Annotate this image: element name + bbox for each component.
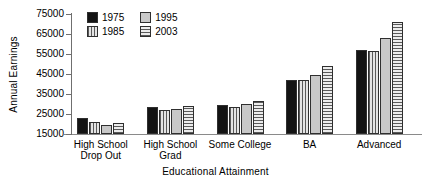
bar <box>77 118 88 134</box>
bar <box>241 104 252 134</box>
category-label: Advanced <box>329 139 429 150</box>
legend-label: 2003 <box>155 26 177 37</box>
bar <box>356 50 367 134</box>
bar <box>380 38 391 134</box>
bar <box>183 106 194 134</box>
legend-item: 1985 <box>87 26 124 37</box>
legend-swatch <box>87 12 98 23</box>
bar <box>392 22 403 134</box>
bar <box>368 51 379 134</box>
chart-legend: 1975199519852003 <box>87 12 178 37</box>
legend-label: 1975 <box>102 12 124 23</box>
bar <box>147 107 158 134</box>
bar <box>286 80 297 134</box>
bar <box>89 122 100 134</box>
x-axis-label: Educational Attainment <box>0 166 431 177</box>
y-tick-label: 15000 <box>0 129 64 139</box>
bar <box>310 75 321 134</box>
y-tick-label: 75000 <box>0 9 64 19</box>
bar <box>217 105 228 134</box>
bar <box>298 80 309 134</box>
bar-group <box>77 118 124 134</box>
y-tick-label: 55000 <box>0 49 64 59</box>
legend-swatch <box>140 12 151 23</box>
legend-item: 1995 <box>140 12 177 23</box>
bar <box>113 123 124 134</box>
y-tick-label: 65000 <box>0 29 64 39</box>
y-tick-mark <box>66 134 72 135</box>
legend-label: 1985 <box>102 26 124 37</box>
bar-group <box>356 22 403 134</box>
y-tick-label: 25000 <box>0 109 64 119</box>
legend-item: 2003 <box>140 26 177 37</box>
y-tick-label: 35000 <box>0 89 64 99</box>
x-axis-line <box>64 134 422 135</box>
bar-group <box>217 101 264 134</box>
bar <box>171 109 182 134</box>
legend-item: 1975 <box>87 12 124 23</box>
bar-chart: Annual Earnings Educational Attainment 1… <box>0 0 431 185</box>
bar-group <box>286 66 333 134</box>
y-tick-label: 45000 <box>0 69 64 79</box>
legend-swatch <box>87 26 98 37</box>
bar <box>101 125 112 134</box>
legend-label: 1995 <box>155 12 177 23</box>
legend-swatch <box>140 26 151 37</box>
bar <box>229 107 240 134</box>
bar <box>159 110 170 134</box>
bar <box>253 101 264 134</box>
bar <box>322 66 333 134</box>
bar-group <box>147 106 194 134</box>
